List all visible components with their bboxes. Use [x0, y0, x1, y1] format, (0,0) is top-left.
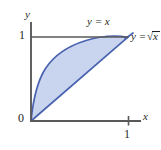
y-axis-label: y — [25, 9, 30, 20]
plot-svg — [0, 0, 161, 150]
annotation-y-equals-x: y = x — [87, 16, 110, 27]
origin-tick-label: 0 — [18, 112, 24, 124]
x-axis-label: x — [143, 111, 148, 122]
radical-icon: √x — [146, 31, 158, 42]
y-tick-label-1: 1 — [19, 29, 25, 41]
figure-canvas: y x y = x y =√x 0 1 1 — [0, 0, 161, 150]
sqrt-annotation-prefix: y = — [131, 30, 146, 42]
x-tick-label-1: 1 — [124, 128, 130, 140]
annotation-y-equals-sqrt-x: y =√x — [131, 31, 158, 42]
